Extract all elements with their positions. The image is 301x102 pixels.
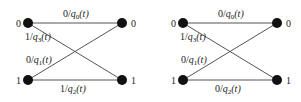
node-left-0 — [23, 18, 33, 28]
state-label-right-0: 0 — [286, 18, 291, 29]
state-label-left-0: 0 — [16, 18, 21, 29]
state-label-right-1: 1 — [286, 75, 291, 86]
edge-label-cross-up: 0/q1(t) — [26, 54, 52, 67]
state-label-left-0: 0 — [171, 18, 176, 29]
edge-label-top: 0/q0(t) — [218, 8, 244, 21]
edge-label-cross-down: 1/q3(t) — [180, 31, 206, 44]
node-left-0 — [178, 18, 188, 28]
trellis-diagram-1: 0 1 0 1 0/q0(t) 1/q3(t) 0/q1(t) 1/q2(t) — [16, 8, 136, 96]
trellis-diagram-2: 0 1 0 1 0/q0(t) 1/q3(t) 0/q1(t) 0/q2(t) — [171, 8, 291, 96]
edge-label-top: 0/q0(t) — [63, 8, 89, 21]
edge-label-cross-up: 0/q1(t) — [181, 54, 207, 67]
node-right-1 — [272, 75, 282, 85]
node-left-1 — [178, 75, 188, 85]
node-right-0 — [117, 18, 127, 28]
state-label-right-1: 1 — [131, 75, 136, 86]
node-left-1 — [23, 75, 33, 85]
edge-label-cross-down: 1/q3(t) — [25, 31, 51, 44]
state-label-left-1: 1 — [16, 75, 21, 86]
state-label-right-0: 0 — [131, 18, 136, 29]
edge-label-bottom: 1/q2(t) — [60, 83, 86, 96]
state-label-left-1: 1 — [171, 75, 176, 86]
edge-label-bottom: 0/q2(t) — [215, 83, 241, 96]
trellis-diagrams: 0 1 0 1 0/q0(t) 1/q3(t) 0/q1(t) 1/q2(t) … — [0, 0, 301, 102]
node-right-0 — [272, 18, 282, 28]
node-right-1 — [117, 75, 127, 85]
